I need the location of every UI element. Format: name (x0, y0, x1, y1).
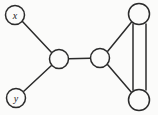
node-label-y: y (13, 93, 19, 104)
edge-x-leftmiddle (22, 21, 52, 53)
edge-rightmiddle-bottomright (108, 65, 133, 94)
edge-y-leftmiddle (23, 65, 52, 92)
node-layer: xy (6, 4, 150, 111)
node-label-x: x (12, 10, 18, 21)
graph-figure: xy (0, 0, 158, 115)
graph-canvas: xy (0, 0, 158, 115)
edge-layer (22, 21, 146, 93)
edge-rightmiddle-topright (108, 22, 133, 52)
node-bottom-right (129, 90, 150, 111)
node-left-middle (50, 50, 69, 69)
edge-leftmiddle-rightmiddle (69, 58, 91, 59)
node-right-middle (91, 49, 110, 68)
node-top-right (129, 4, 150, 25)
